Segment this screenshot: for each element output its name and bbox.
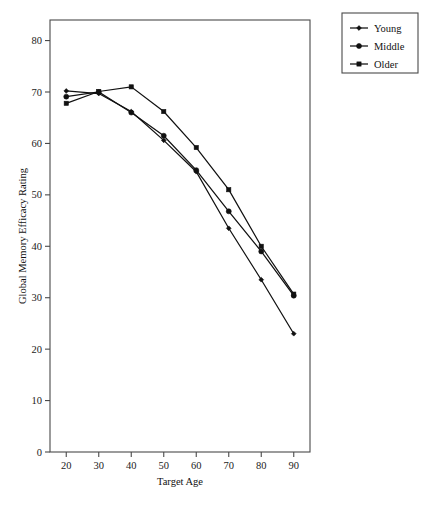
chart-figure: 01020304050607080 2030405060708090 Targe…	[0, 0, 438, 505]
y-tick-label: 20	[32, 344, 43, 355]
series-young	[64, 89, 296, 337]
legend-label: Older	[374, 59, 398, 70]
legend-label: Middle	[374, 41, 405, 52]
data-point	[97, 89, 101, 93]
legend-entries: YoungMiddleOlder	[350, 23, 405, 70]
chart-legend: YoungMiddleOlder	[342, 13, 418, 73]
y-axis-title: Global Memory Efficacy Rating	[17, 167, 28, 304]
series-line	[66, 91, 294, 334]
legend-marker-square-icon	[357, 62, 361, 66]
x-tick-label: 30	[94, 460, 105, 471]
y-tick-label: 80	[32, 35, 43, 46]
x-tick-label: 40	[126, 460, 137, 471]
legend-marker-circle-icon	[357, 44, 362, 49]
y-tick-label: 60	[32, 138, 43, 149]
legend-label: Young	[374, 23, 402, 34]
x-axis-ticks: 2030405060708090	[61, 452, 299, 471]
data-point	[227, 188, 231, 192]
x-tick-label: 20	[61, 460, 72, 471]
data-point	[162, 109, 166, 113]
series-older	[64, 85, 296, 296]
data-point	[64, 94, 69, 99]
data-point	[129, 110, 134, 115]
data-point	[194, 145, 198, 149]
x-tick-label: 50	[159, 460, 170, 471]
x-axis-title: Target Age	[157, 476, 203, 487]
data-point	[161, 133, 166, 138]
series-middle	[64, 90, 297, 299]
data-point	[292, 292, 296, 296]
y-tick-label: 40	[32, 241, 43, 252]
plot-frame	[50, 20, 310, 452]
y-tick-label: 50	[32, 189, 43, 200]
y-axis-ticks: 01020304050607080	[32, 35, 51, 457]
data-series-group	[64, 85, 297, 336]
x-tick-label: 80	[256, 460, 267, 471]
data-point	[259, 244, 263, 248]
data-point	[64, 101, 68, 105]
y-tick-label: 10	[32, 395, 43, 406]
data-point	[226, 209, 231, 214]
y-tick-label: 30	[32, 292, 43, 303]
data-point	[129, 85, 133, 89]
x-tick-label: 90	[289, 460, 300, 471]
line-chart-svg: 01020304050607080 2030405060708090 Targe…	[0, 0, 438, 505]
y-tick-label: 0	[37, 447, 42, 458]
x-tick-label: 70	[224, 460, 235, 471]
series-line	[66, 87, 294, 294]
data-point	[194, 168, 199, 173]
y-tick-label: 70	[32, 87, 43, 98]
data-point	[64, 89, 69, 94]
x-tick-label: 60	[191, 460, 202, 471]
series-line	[66, 92, 294, 296]
